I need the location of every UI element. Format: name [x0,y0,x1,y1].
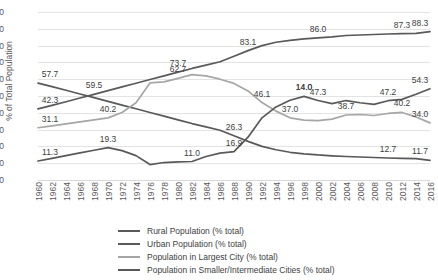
data-point-label: 14.0 [296,82,313,92]
x-axis-tick-label: 2004 [342,182,352,201]
y-axis-tick-label: 30 [0,125,4,135]
legend-item-label: Population in Smaller/Intermediate Citie… [147,265,335,275]
x-axis-tick-label: 1964 [62,182,72,201]
data-point-label: 16.9 [226,138,243,148]
y-axis-title: % of Total Population [4,11,14,151]
x-axis-tick-label: 2008 [370,182,380,201]
data-point-label: 59.5 [86,80,103,90]
legend-line-swatch [118,269,140,271]
data-point-label: 57.7 [42,69,59,79]
x-axis-ticks: 1960196219641966196819701972197419761978… [38,182,430,222]
y-axis-tick-label: 10 [0,158,4,168]
x-axis-tick-label: 1972 [118,182,128,201]
x-axis-tick-label: 1970 [104,182,114,201]
x-axis-tick-label: 1976 [146,182,156,201]
x-axis-tick-label: 2016 [426,182,436,201]
data-point-label: 19.3 [100,134,117,144]
y-axis-tick-label: 50 [0,91,4,101]
x-axis-tick-label: 1966 [76,182,86,201]
x-axis-tick-label: 1994 [272,182,282,201]
x-axis-tick-label: 2012 [398,182,408,201]
legend-item-1[interactable]: Urban Population (% total) [118,237,418,250]
x-axis-tick-label: 1962 [48,182,58,201]
data-point-label: 88.3 [412,18,429,28]
x-axis-tick-label: 1986 [216,182,226,201]
y-axis-tick-label: 60 [0,74,4,84]
y-axis-tick-label: 80 [0,41,4,51]
data-point-label: 37.0 [282,104,299,114]
legend-item-label: Rural Population (% total) [147,226,244,236]
x-axis-tick-label: 2000 [314,182,324,201]
y-axis-title-container: % of Total Population [2,12,16,180]
data-point-label: 40.2 [100,104,117,114]
data-point-label: 31.1 [42,114,59,124]
plot-area: 57.726.311.742.359.573.783.186.087.388.3… [38,12,430,180]
y-axis-tick-label: 70 [0,57,4,67]
data-point-label: 11.3 [42,147,58,157]
chart-legend: Rural Population (% total)Urban Populati… [118,224,418,276]
x-axis-tick-label: 1974 [132,182,142,201]
y-axis-tick-label: 100 [0,7,4,17]
data-point-label: 62.7 [170,64,187,74]
x-axis-tick-label: 1984 [202,182,212,201]
series-line-1 [38,32,430,109]
data-point-label: 83.1 [240,37,257,47]
x-axis-tick-label: 2006 [356,182,366,201]
legend-line-swatch [118,230,140,232]
data-point-label: 34.0 [412,109,429,119]
legend-line-swatch [118,256,140,258]
x-axis-tick-label: 1978 [160,182,170,201]
y-axis-tick-label: 90 [0,24,4,34]
x-axis-tick-label: 1980 [174,182,184,201]
x-axis-tick-label: 1996 [286,182,296,201]
line-chart: % of Total Population 57.726.311.742.359… [0,0,438,280]
data-point-label: 46.1 [254,89,271,99]
legend-item-label: Population in Largest City (% total) [147,252,278,262]
x-axis-tick-label: 2002 [328,182,338,201]
legend-item-3[interactable]: Population in Smaller/Intermediate Citie… [118,263,418,276]
data-point-label: 38.7 [338,101,355,111]
data-point-label: 12.7 [380,144,397,154]
legend-item-2[interactable]: Population in Largest City (% total) [118,250,418,263]
data-point-label: 11.0 [184,148,200,158]
x-axis-tick-label: 1988 [230,182,240,201]
data-point-label: 54.3 [412,75,429,85]
data-point-label: 11.7 [412,146,428,156]
x-axis-tick-label: 1998 [300,182,310,201]
series-lines [38,12,430,180]
x-axis-tick-label: 2014 [412,182,422,201]
x-axis-tick-label: 1960 [34,182,44,201]
data-point-label: 40.2 [394,98,411,108]
x-axis-tick-label: 1982 [188,182,198,201]
x-axis-tick-label: 1968 [90,182,100,201]
data-point-label: 86.0 [310,24,327,34]
y-axis-tick-label: 0 [0,175,4,185]
data-point-label: 47.2 [380,87,397,97]
y-axis-tick-label: 20 [0,141,4,151]
legend-item-label: Urban Population (% total) [147,239,247,249]
legend-line-swatch [118,243,140,245]
legend-item-0[interactable]: Rural Population (% total) [118,224,418,237]
y-axis-tick-label: 40 [0,108,4,118]
data-point-label: 87.3 [394,20,411,30]
gridline [38,180,430,181]
data-point-label: 42.3 [42,95,59,105]
data-point-label: 26.3 [226,122,243,132]
x-axis-tick-label: 1992 [258,182,268,201]
x-axis-tick-label: 2010 [384,182,394,201]
x-axis-tick-label: 1990 [244,182,254,201]
